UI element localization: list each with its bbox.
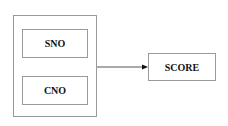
node-score: SCORE xyxy=(148,53,216,81)
